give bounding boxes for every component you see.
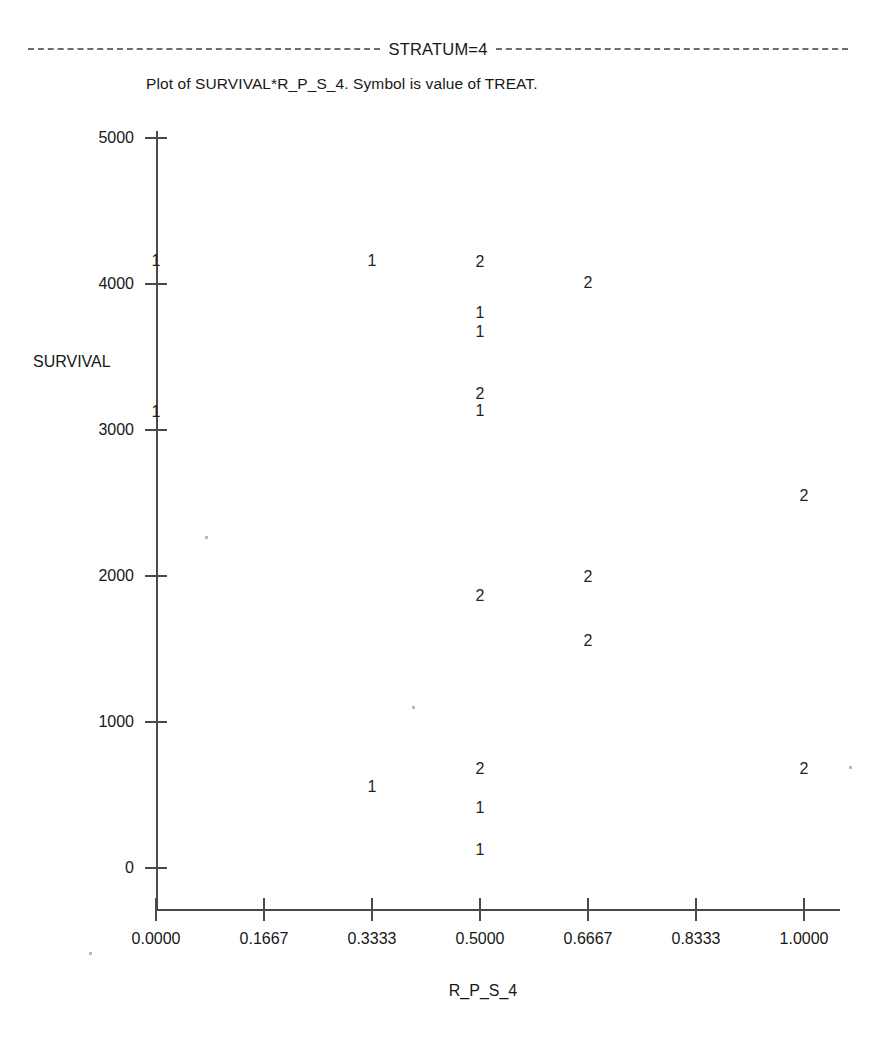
- x-tick-label: 1.0000: [749, 930, 859, 948]
- y-tick-label: 4000: [28, 275, 134, 293]
- x-axis-line: [156, 909, 840, 911]
- y-tick-mark: [145, 137, 167, 139]
- x-tick-mark: [371, 898, 373, 921]
- data-point-symbol-1: 1: [368, 779, 377, 795]
- scan-speck: [412, 706, 415, 709]
- data-point-symbol-2: 2: [584, 275, 593, 291]
- data-point-symbol-2: 2: [476, 386, 485, 402]
- x-tick-mark: [155, 898, 157, 921]
- y-tick-label: 0: [28, 859, 134, 877]
- data-point-symbol-1: 1: [476, 403, 485, 419]
- data-point-symbol-2: 2: [584, 633, 593, 649]
- x-axis-title-text: R_P_S_4: [449, 982, 518, 999]
- scan-speck: [849, 766, 852, 769]
- y-axis-title: SURVIVAL: [33, 353, 111, 371]
- y-tick-label: 5000: [28, 129, 134, 147]
- data-point-symbol-1: 1: [476, 842, 485, 858]
- data-point-symbol-1: 1: [476, 324, 485, 340]
- data-point-symbol-2: 2: [476, 254, 485, 270]
- x-tick-mark: [587, 898, 589, 921]
- x-tick-label: 0.6667: [533, 930, 643, 948]
- data-point-symbol-1: 1: [476, 800, 485, 816]
- y-tick-mark: [145, 429, 167, 431]
- x-tick-mark: [695, 898, 697, 921]
- data-point-symbol-2: 2: [800, 488, 809, 504]
- scan-speck: [205, 536, 208, 539]
- data-point-symbol-1: 1: [152, 253, 161, 269]
- data-point-symbol-1: 1: [476, 305, 485, 321]
- x-tick-label: 0.0000: [101, 930, 211, 948]
- y-tick-label: 2000: [28, 567, 134, 585]
- data-point-symbol-2: 2: [476, 588, 485, 604]
- y-tick-mark: [145, 575, 167, 577]
- x-tick-label: 0.3333: [317, 930, 427, 948]
- y-axis-line: [156, 131, 158, 910]
- y-tick-mark: [145, 867, 167, 869]
- x-tick-label: 0.8333: [641, 930, 751, 948]
- data-point-symbol-2: 2: [476, 761, 485, 777]
- y-tick-label: 3000: [28, 421, 134, 439]
- x-tick-mark: [479, 898, 481, 921]
- scan-speck: [89, 952, 92, 955]
- x-tick-label: 0.5000: [425, 930, 535, 948]
- x-tick-mark: [263, 898, 265, 921]
- y-tick-mark: [145, 721, 167, 723]
- plot-page: STRATUM=4 Plot of SURVIVAL*R_P_S_4. Symb…: [0, 0, 876, 1048]
- data-point-symbol-1: 1: [368, 253, 377, 269]
- data-point-symbol-2: 2: [800, 761, 809, 777]
- x-tick-mark: [803, 898, 805, 921]
- plot-area: 500040003000200010000 0.00000.16670.3333…: [0, 0, 876, 1048]
- y-tick-label: 1000: [28, 713, 134, 731]
- x-axis-title: R_P_S_4: [0, 982, 876, 1000]
- x-tick-label: 0.1667: [209, 930, 319, 948]
- data-point-symbol-2: 2: [584, 569, 593, 585]
- data-point-symbol-1: 1: [152, 404, 161, 420]
- y-tick-mark: [145, 283, 167, 285]
